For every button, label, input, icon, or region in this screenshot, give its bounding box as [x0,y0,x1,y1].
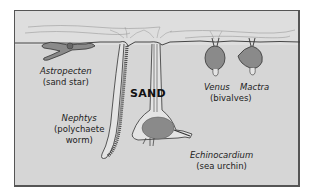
nephtys-worm-burrow [102,44,128,159]
astropecten-genus: Astropecten [40,66,92,77]
echinocardium-common-name: (sea urchin) [190,161,253,172]
nephtys-common-line1: (polychaete [54,124,104,135]
astropecten-label: Astropecten (sand star) [40,66,92,88]
venus-bivalve [205,38,225,76]
nephtys-genus: Nephtys [54,113,104,124]
sand-label: SAND [130,87,166,100]
bivalves-group-label: (bivalves) [210,93,252,104]
astropecten-sand-star [42,42,95,60]
mactra-bivalve [238,38,262,75]
current-lines [110,27,222,39]
astropecten-common-name: (sand star) [40,77,92,88]
mactra-label: Mactra [240,82,269,93]
echinocardium-label: Echinocardium (sea urchin) [190,150,253,172]
venus-label: Venus [204,82,230,93]
sea-urchin-body [142,117,174,139]
echinocardium-genus: Echinocardium [190,150,253,161]
nephtys-label: Nephtys (polychaete worm) [54,113,104,146]
nephtys-common-line2: worm) [54,135,104,146]
